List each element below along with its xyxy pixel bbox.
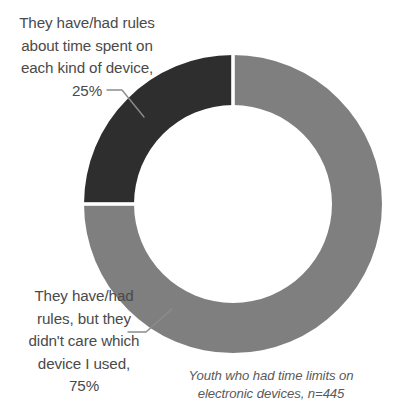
slice-gap-left: [82, 202, 136, 206]
slice-label-dark: They have/had rules about time spent on …: [0, 12, 176, 102]
donut-chart-figure: They have/had rules about time spent on …: [0, 0, 404, 404]
slice-gap-top: [231, 53, 235, 107]
chart-caption: Youth who had time limits on electronic …: [146, 367, 396, 404]
